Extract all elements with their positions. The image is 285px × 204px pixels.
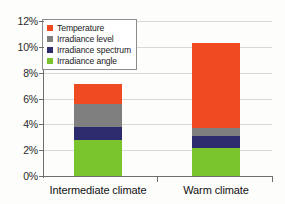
y-tick-label-wrap: 6% [0,94,38,104]
y-tick-label-8: 8% [4,68,38,78]
legend-swatch-irradiance-angle [47,58,53,64]
y-tick-label-12: 12% [4,16,38,26]
y-tick-label-0: 0% [4,171,38,181]
chart-legend: Temperature Irradiance level Irradiance … [42,19,137,70]
y-tick-mark-6 [39,99,44,100]
legend-swatch-temperature [47,25,53,31]
y-tick-label-wrap: 2% [0,145,38,155]
y-tick-mark-10 [39,47,44,48]
legend-swatch-irradiance-spectrum [47,47,53,53]
legend-item-irradiance-angle[interactable]: Irradiance angle [47,56,131,66]
bar-segment-irradiance-level[interactable] [192,128,240,136]
bar-intermediate-climate[interactable] [74,84,122,176]
y-tick-label-4: 4% [4,119,38,129]
legend-item-irradiance-level[interactable]: Irradiance level [47,34,131,44]
y-tick-mark-0 [39,176,44,177]
bar-warm-climate[interactable] [192,43,240,176]
legend-item-irradiance-spectrum[interactable]: Irradiance spectrum [47,45,131,55]
legend-item-temperature[interactable]: Temperature [47,23,131,33]
bar-segment-temperature[interactable] [74,84,122,103]
bar-segment-irradiance-level[interactable] [74,104,122,127]
y-tick-label-2: 2% [4,145,38,155]
x-axis-line [44,176,273,177]
legend-swatch-irradiance-level [47,36,53,42]
bar-segment-irradiance-spectrum[interactable] [74,127,122,141]
y-tick-label-10: 10% [4,42,38,52]
y-tick-mark-2 [39,150,44,151]
bar-segment-irradiance-angle[interactable] [74,140,122,176]
y-tick-mark-8 [39,73,44,74]
x-tick-mark-1 [272,177,273,182]
x-tick-label-warm-climate: Warm climate [146,183,285,197]
bar-segment-temperature[interactable] [192,43,240,128]
x-tick-mark-0 [157,177,158,182]
y-tick-mark-4 [39,124,44,125]
y-tick-label-wrap: 8% [0,68,38,78]
bar-segment-irradiance-spectrum[interactable] [192,136,240,148]
y-tick-label-wrap: 10% [0,42,38,52]
legend-label-irradiance-level: Irradiance level [57,35,114,44]
legend-label-temperature: Temperature [57,24,104,33]
legend-label-irradiance-spectrum: Irradiance spectrum [57,46,131,55]
legend-label-irradiance-angle: Irradiance angle [57,57,117,66]
bar-segment-irradiance-angle[interactable] [192,148,240,176]
y-tick-label-wrap: 4% [0,119,38,129]
stacked-bar-chart: 0%2%4%6%8%10%12% Intermediate climateWar… [0,0,285,204]
y-tick-label-6: 6% [4,94,38,104]
y-tick-label-wrap: 12% [0,16,38,26]
y-tick-mark-12 [39,21,44,22]
y-tick-label-wrap: 0% [0,171,38,181]
